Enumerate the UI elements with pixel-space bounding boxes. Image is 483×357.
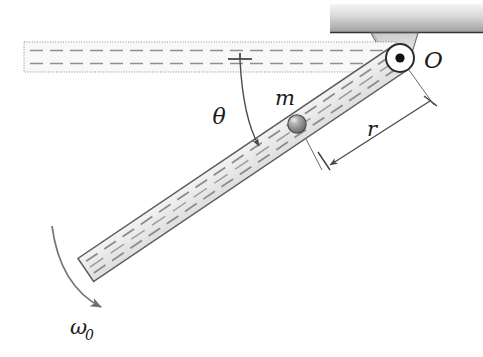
- ceiling-support-block: [330, 4, 483, 33]
- slotted-rod: [78, 46, 408, 281]
- physics-diagram: θ m r ω 0 O: [0, 0, 483, 357]
- angular-velocity-label: ω 0: [70, 315, 94, 343]
- omega-subscript: 0: [85, 327, 94, 343]
- pivot-joint: [386, 44, 414, 72]
- physics-figure-canvas: θ m r ω 0 O: [0, 0, 483, 357]
- pivot-label: O: [424, 47, 443, 73]
- sliding-mass-ball: [288, 115, 306, 133]
- theta-label: θ: [212, 104, 225, 129]
- reference-horizontal-rod: [24, 42, 396, 72]
- mass-label: m: [275, 86, 295, 110]
- radius-label: r: [367, 117, 379, 141]
